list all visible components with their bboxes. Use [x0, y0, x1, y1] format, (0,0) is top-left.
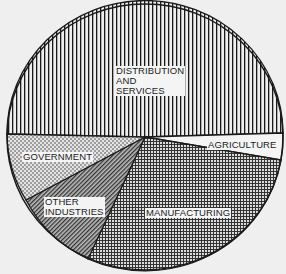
pie-chart: [0, 0, 286, 274]
label-agriculture: AGRICULTURE: [207, 140, 278, 150]
label-manufacturing: MANUFACTURING: [145, 208, 231, 218]
label-government: GOVERNMENT: [22, 152, 93, 162]
label-distribution-and-services: DISTRIBUTION AND SERVICES: [115, 66, 185, 96]
label-other-industries: OTHER INDUSTRIES: [44, 197, 105, 217]
